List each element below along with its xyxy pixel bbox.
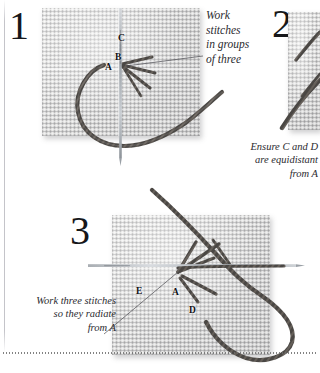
left-margin-rule	[4, 0, 5, 352]
point-label-e-step-3: E	[136, 286, 142, 296]
fabric-fold-vertical	[118, 8, 120, 136]
step-number-3: 3	[70, 211, 90, 251]
footer-dotted-rule	[2, 352, 318, 354]
fabric-fold-horizontal	[42, 68, 200, 70]
canvas-fabric-swatch-1	[42, 8, 200, 136]
point-label-a-step-3: A	[172, 287, 179, 297]
instruction-page: 1 Work stitches in groups of three 2 Ens…	[0, 0, 320, 373]
caption-step-3: Work three stitches so they radiate from…	[8, 294, 116, 334]
canvas-fabric-swatch-3	[112, 215, 270, 355]
point-label-b-step-1: B	[115, 52, 121, 62]
point-label-a-step-1: A	[105, 62, 112, 72]
point-label-d-step-3: D	[189, 305, 196, 315]
canvas-fabric-swatch-2	[288, 12, 320, 130]
step-number-1: 1	[9, 6, 29, 46]
caption-step-1: Work stitches in groups of three	[206, 8, 249, 67]
caption-step-2: Ensure C and D are equidistant from A	[236, 140, 318, 180]
point-label-c-step-1: C	[118, 33, 125, 43]
